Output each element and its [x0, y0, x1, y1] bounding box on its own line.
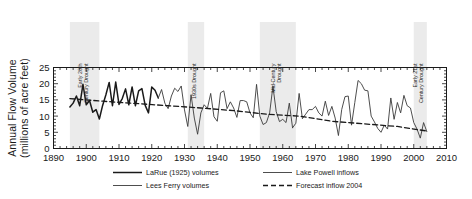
plot-border [54, 68, 447, 149]
y-tick-label: 10 [39, 111, 50, 122]
x-tick-label: 1960 [272, 152, 293, 163]
chart-canvas: 1890190019101920193019401950196019701980… [0, 0, 472, 199]
series-line [293, 80, 427, 138]
x-tick-label: 1930 [174, 152, 195, 163]
series-line [70, 99, 427, 131]
y-axis-title: Annual Flow Volume(millions of acre feet… [6, 58, 30, 158]
x-tick-label: 1940 [207, 152, 228, 163]
y-tick-label: 5 [44, 127, 49, 138]
y-tick-label: 15 [39, 94, 50, 105]
legend-label: Lake Powell inflows [296, 168, 359, 177]
y-tick-label: 20 [39, 78, 50, 89]
chart-legend: LaRue (1925) volumesLake Powell inflowsL… [113, 168, 362, 190]
data-series-layer [70, 80, 427, 138]
drought-bands-layer [70, 22, 427, 149]
drought-band-label: Drought [276, 63, 282, 83]
legend-label: Lees Ferry volumes [146, 181, 210, 190]
legend-label: LaRue (1925) volumes [146, 168, 219, 177]
y-tick-label: 0 [44, 143, 49, 154]
drought-band-label: Century Drought [418, 63, 424, 103]
drought-band-label: Century Drought [83, 63, 89, 103]
drought-band-label: 1930s Drought [191, 63, 197, 99]
y-axis-title-text: Annual Flow Volume [6, 59, 18, 157]
axis-ticks [54, 68, 447, 149]
x-tick-label: 1920 [141, 152, 162, 163]
x-tick-label: 1950 [239, 152, 260, 163]
band-labels-layer: Early 20thCentury Drought1930s DroughtMi… [77, 63, 425, 103]
x-tick-label: 1910 [108, 152, 129, 163]
y-tick-label: 25 [39, 62, 50, 73]
flow-volume-chart-figure: 1890190019101920193019401950196019701980… [0, 0, 472, 199]
plot-frame [54, 68, 447, 149]
x-tick-label: 2000 [403, 152, 424, 163]
x-tick-label: 1980 [338, 152, 359, 163]
x-tick-label: 1990 [370, 152, 391, 163]
x-tick-label: 1900 [76, 152, 97, 163]
x-tick-label: 2010 [436, 152, 457, 163]
drought-band [260, 22, 296, 149]
legend-label: Forecast inflow 2004 [296, 181, 362, 190]
x-tick-label: 1970 [305, 152, 326, 163]
y-axis-title-text: (millions of acre feet) [18, 58, 30, 158]
